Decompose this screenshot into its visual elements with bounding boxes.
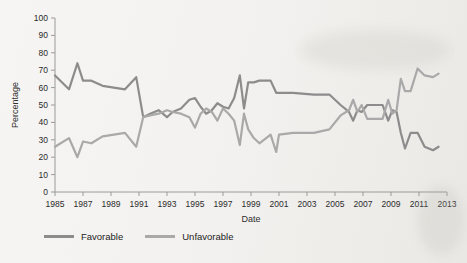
y-tick-label: 40 <box>39 117 49 127</box>
x-axis-label: Date <box>241 214 260 224</box>
x-tick-label: 2011 <box>410 199 429 209</box>
series-line-favorable <box>55 63 439 150</box>
x-tick-label: 2005 <box>326 199 345 209</box>
x-tick-label: 1985 <box>46 199 65 209</box>
x-tick-label: 2007 <box>354 199 373 209</box>
x-tick-label: 2001 <box>270 199 289 209</box>
legend-label: Favorable <box>81 231 123 242</box>
x-axis-ticks: 1985198719891991199319951997199920012003… <box>46 192 457 209</box>
legend-item-unfavorable[interactable]: Unfavorable <box>145 231 233 242</box>
y-tick-label: 20 <box>39 152 49 162</box>
y-tick-label: 50 <box>39 100 49 110</box>
line-chart-canvas: 0102030405060708090100 19851987198919911… <box>0 0 467 263</box>
x-tick-label: 2009 <box>382 199 401 209</box>
y-tick-label: 0 <box>43 187 48 197</box>
legend-swatch-favorable <box>44 235 74 238</box>
y-tick-label: 30 <box>39 135 49 145</box>
data-series-group <box>55 63 439 157</box>
y-tick-label: 10 <box>39 170 49 180</box>
x-tick-label: 1993 <box>158 199 177 209</box>
chart-legend: FavorableUnfavorable <box>44 231 255 242</box>
x-tick-label: 1991 <box>130 199 149 209</box>
x-tick-label: 1989 <box>102 199 121 209</box>
legend-item-favorable[interactable]: Favorable <box>44 231 123 242</box>
y-tick-label: 100 <box>34 13 48 23</box>
y-tick-label: 90 <box>39 30 49 40</box>
legend-label: Unfavorable <box>182 231 233 242</box>
x-tick-label: 1997 <box>214 199 233 209</box>
series-line-unfavorable <box>55 68 439 157</box>
x-tick-label: 1995 <box>186 199 205 209</box>
y-tick-label: 60 <box>39 83 49 93</box>
x-tick-label: 2003 <box>298 199 317 209</box>
chart-figure: 0102030405060708090100 19851987198919911… <box>0 0 467 263</box>
y-axis-ticks: 0102030405060708090100 <box>34 13 55 197</box>
legend-swatch-unfavorable <box>145 235 175 238</box>
y-tick-label: 80 <box>39 48 49 58</box>
y-axis-label: Percentage <box>10 82 20 128</box>
x-tick-label: 2013 <box>438 199 457 209</box>
y-tick-label: 70 <box>39 65 49 75</box>
x-tick-label: 1987 <box>74 199 93 209</box>
x-tick-label: 1999 <box>242 199 261 209</box>
